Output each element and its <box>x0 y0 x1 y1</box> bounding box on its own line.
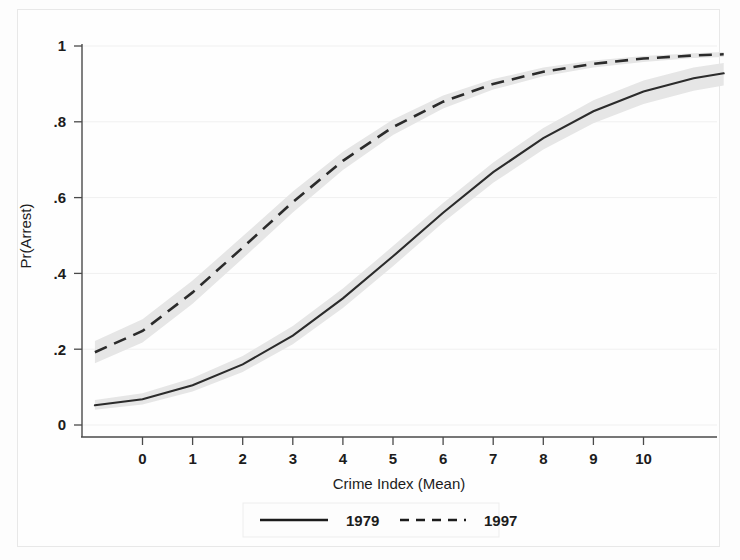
x-tick-label-1: 1 <box>188 450 196 467</box>
x-tick-label-4: 4 <box>339 450 348 467</box>
y-ticks <box>74 46 82 425</box>
x-tick-label-5: 5 <box>389 450 397 467</box>
confidence-bands <box>95 52 724 410</box>
x-ticks <box>143 437 644 445</box>
legend: 1979 1997 <box>243 503 517 537</box>
x-tick-label-2: 2 <box>239 450 247 467</box>
legend-label-1979: 1979 <box>346 512 379 529</box>
x-tick-label-10: 10 <box>635 450 652 467</box>
x-tick-label-7: 7 <box>489 450 497 467</box>
y-axis-title: Pr(Arrest) <box>17 204 34 269</box>
y-tick-labels: 1 .8 .6 .4 .2 0 <box>53 37 66 433</box>
x-tick-label-6: 6 <box>439 450 447 467</box>
x-tick-label-3: 3 <box>289 450 297 467</box>
x-axis-title: Crime Index (Mean) <box>333 475 466 492</box>
y-tick-label-3: .6 <box>53 189 66 206</box>
y-tick-label-0: 0 <box>58 416 66 433</box>
x-tick-labels: 0 1 2 3 4 5 6 7 8 9 10 <box>138 450 652 467</box>
chart-svg: 1 .8 .6 .4 .2 0 Pr(Arrest) 0 1 2 <box>0 0 740 560</box>
x-tick-label-0: 0 <box>138 450 146 467</box>
y-tick-label-5: 1 <box>58 37 66 54</box>
y-tick-label-1: .2 <box>53 341 66 358</box>
y-tick-label-4: .8 <box>53 113 66 130</box>
x-tick-label-9: 9 <box>589 450 597 467</box>
x-tick-label-8: 8 <box>539 450 547 467</box>
y-tick-label-2: .4 <box>53 265 66 282</box>
figure-container: 1 .8 .6 .4 .2 0 Pr(Arrest) 0 1 2 <box>0 0 740 560</box>
legend-label-1997: 1997 <box>484 512 517 529</box>
